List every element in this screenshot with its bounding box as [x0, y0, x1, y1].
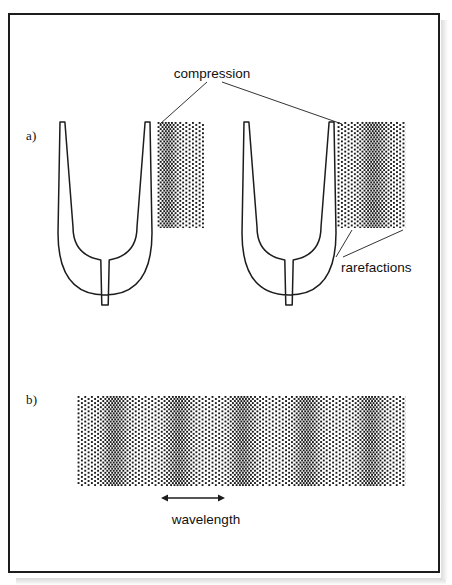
- figure-root: a) b) compression rarefactions wavelengt…: [0, 0, 452, 585]
- left-wave-dot-field: [158, 122, 204, 228]
- wave-train-dot-field: [78, 396, 408, 486]
- wavelength-arrow-icon: [161, 495, 225, 502]
- diagram-artwork: [0, 0, 452, 585]
- right-wave-dot-field: [338, 122, 408, 228]
